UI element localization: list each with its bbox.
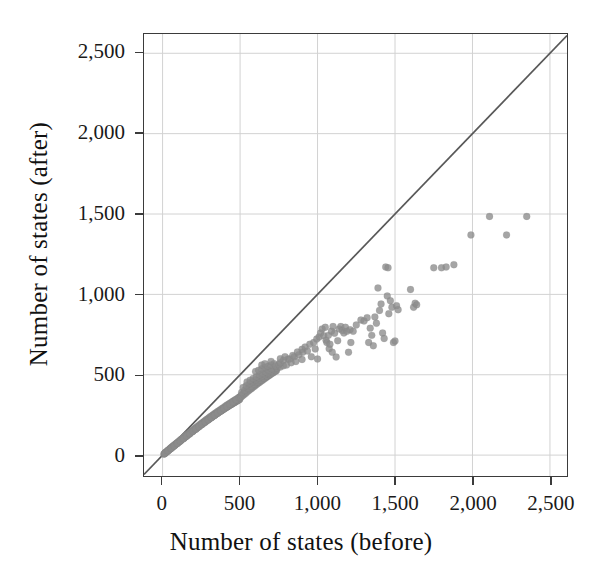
scatter-point bbox=[503, 231, 510, 238]
scatter-point bbox=[385, 310, 392, 317]
y-axis-tick-mark bbox=[135, 375, 143, 376]
y-axis-tick-mark bbox=[135, 213, 143, 214]
scatter-point bbox=[407, 286, 414, 293]
x-axis-tick-label: 500 bbox=[224, 493, 256, 514]
scatter-point bbox=[371, 313, 378, 320]
scatter-point bbox=[299, 356, 306, 363]
scatter-point bbox=[413, 301, 420, 308]
y-axis-tick-label: 2,000 bbox=[0, 122, 125, 143]
scatter-point bbox=[392, 338, 399, 345]
scatter-point bbox=[261, 360, 268, 367]
x-axis-tick-mark bbox=[317, 477, 318, 485]
x-axis-tick-label: 2,000 bbox=[449, 493, 496, 514]
scatter-point bbox=[378, 301, 385, 308]
y-axis-tick-mark bbox=[135, 455, 143, 456]
y-axis-tick-label: 1,500 bbox=[0, 203, 125, 224]
scatter-point bbox=[381, 335, 388, 342]
y-axis-tick-mark bbox=[135, 294, 143, 295]
y-axis-tick-label: 0 bbox=[0, 445, 125, 466]
scatter-point bbox=[326, 341, 333, 348]
y-axis-tick-label: 1,000 bbox=[0, 284, 125, 305]
scatter-point bbox=[486, 213, 493, 220]
scatter-point bbox=[345, 349, 352, 356]
y-axis-tick-mark bbox=[135, 132, 143, 133]
x-axis-tick-mark bbox=[550, 477, 551, 485]
scatter-point bbox=[364, 314, 371, 321]
scatter-point bbox=[387, 297, 394, 304]
x-axis-tick-mark bbox=[239, 477, 240, 485]
scatter-point bbox=[376, 307, 383, 314]
scatter-point bbox=[370, 342, 377, 349]
scatter-point bbox=[395, 306, 402, 313]
scatter-point bbox=[368, 332, 375, 339]
scatter-point bbox=[385, 264, 392, 271]
scatter-point bbox=[330, 323, 337, 330]
x-axis-label: Number of states (before) bbox=[0, 528, 602, 556]
scatter-plot-figure: 05001,0001,5002,0002,500 05001,0001,5002… bbox=[0, 0, 602, 577]
x-axis-tick-mark bbox=[394, 477, 395, 485]
scatter-point bbox=[322, 324, 329, 331]
scatter-points-layer bbox=[144, 34, 567, 476]
scatter-point bbox=[373, 320, 380, 327]
scatter-point bbox=[467, 231, 474, 238]
plot-area bbox=[143, 33, 568, 477]
scatter-point bbox=[374, 284, 381, 291]
y-axis-label: Number of states (after) bbox=[25, 79, 53, 409]
y-axis-tick-label: 2,500 bbox=[0, 41, 125, 62]
scatter-point bbox=[430, 264, 437, 271]
scatter-point bbox=[367, 325, 374, 332]
scatter-point bbox=[450, 261, 457, 268]
scatter-point bbox=[523, 213, 530, 220]
x-axis-tick-label: 1,500 bbox=[372, 493, 419, 514]
y-axis-tick-label: 500 bbox=[0, 364, 125, 385]
scatter-point bbox=[333, 354, 340, 361]
x-axis-tick-label: 0 bbox=[156, 493, 167, 514]
x-axis-tick-label: 2,500 bbox=[527, 493, 574, 514]
x-axis-tick-mark bbox=[472, 477, 473, 485]
scatter-point bbox=[312, 346, 319, 353]
x-axis-tick-mark bbox=[161, 477, 162, 485]
scatter-point bbox=[292, 358, 299, 365]
x-axis-tick-label: 1,000 bbox=[294, 493, 341, 514]
scatter-point bbox=[314, 356, 321, 363]
y-axis-tick-mark bbox=[135, 52, 143, 53]
scatter-point bbox=[443, 264, 450, 271]
scatter-point bbox=[347, 339, 354, 346]
scatter-point bbox=[334, 337, 341, 344]
scatter-point bbox=[350, 328, 357, 335]
scatter-point bbox=[308, 353, 315, 360]
